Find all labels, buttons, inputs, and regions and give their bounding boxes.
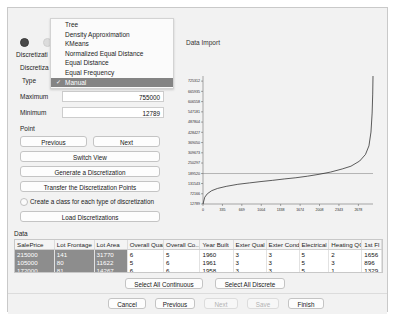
table-cell[interactable]: 81: [54, 267, 94, 273]
table-cell[interactable]: 6: [127, 250, 163, 259]
y-tick-label: 309673: [188, 151, 200, 155]
menu-item-kmeans[interactable]: KMeans: [51, 39, 173, 49]
select-all-continuous-button[interactable]: Select All Continuous: [125, 278, 203, 289]
table-cell[interactable]: 6: [164, 258, 200, 266]
x-tick-label: 335: [219, 208, 225, 212]
menu-item-density-approximation[interactable]: Density Approximation: [51, 30, 173, 40]
minimum-input[interactable]: 12789: [62, 107, 164, 118]
discretization-chart[interactable]: 1278972166131543189520250297309673369050…: [171, 70, 379, 220]
table-cell[interactable]: 3: [233, 267, 266, 273]
discretization-type-dropdown-menu[interactable]: TreeDensity ApproximationKMeansNormalize…: [50, 18, 174, 89]
table-cell[interactable]: 6: [164, 267, 200, 273]
table-cell[interactable]: 1958: [200, 267, 233, 273]
table-cell[interactable]: 1329: [362, 267, 382, 273]
create-class-checkbox-label: Create a class for each type of discreti…: [30, 198, 154, 205]
menu-item-normalized-equal-distance[interactable]: Normalized Equal Distance: [51, 49, 173, 59]
menu-item-label: Equal Frequency: [65, 69, 114, 76]
table-row[interactable]: 10500080116225619613353896: [15, 258, 382, 266]
data-table-container[interactable]: SalePriceLot FrontageLot AreaOverall Qua…: [14, 239, 383, 273]
create-class-checkbox[interactable]: [20, 198, 28, 206]
maximum-input[interactable]: 755000: [62, 91, 164, 102]
table-cell[interactable]: 1960: [200, 250, 233, 259]
table-cell[interactable]: 5: [127, 258, 163, 266]
column-header-saleprice[interactable]: SalePrice: [15, 240, 54, 250]
cancel-button[interactable]: Cancel: [108, 298, 146, 309]
y-tick-label: 428427: [188, 131, 200, 135]
point-label: Point: [20, 124, 35, 133]
menu-item-label: Equal Distance: [65, 59, 109, 66]
column-header-exter-cond[interactable]: Exter Cond: [266, 240, 299, 250]
select-all-discrete-button[interactable]: Select All Discrete: [215, 278, 285, 289]
switch-view-button[interactable]: Switch View: [20, 151, 160, 162]
menu-item-tree[interactable]: Tree: [51, 20, 173, 30]
column-header-overall-qual[interactable]: Overall Qual: [127, 240, 163, 250]
y-tick-label: 665935: [188, 90, 200, 94]
table-cell[interactable]: 896: [362, 258, 382, 266]
label-discretization-1: Discretizati: [16, 50, 48, 59]
menu-item-label: Density Approximation: [65, 31, 130, 38]
footer-next-button: Next: [204, 298, 238, 309]
table-cell[interactable]: 5: [164, 250, 200, 259]
table-cell[interactable]: 105000: [15, 258, 54, 266]
y-tick-label: 131543: [188, 182, 200, 186]
menu-item-manual[interactable]: ✓Manual: [51, 78, 173, 88]
series-line: [203, 76, 373, 204]
transfer-discretization-points-button[interactable]: Transfer the Discretization Points: [20, 181, 160, 192]
table-cell[interactable]: 80: [54, 258, 94, 266]
menu-item-label: Normalized Equal Distance: [65, 50, 143, 57]
menu-item-label: KMeans: [65, 40, 89, 47]
x-tick-label: 2343: [335, 208, 343, 212]
table-cell[interactable]: 141: [54, 250, 94, 259]
table-cell[interactable]: 5: [299, 267, 329, 273]
column-header-year-built[interactable]: Year Built: [200, 240, 233, 250]
table-cell[interactable]: 6: [127, 267, 163, 273]
table-cell[interactable]: 3: [266, 258, 299, 266]
column-header-heating-qc[interactable]: Heating QC: [329, 240, 362, 250]
table-row[interactable]: 172000811426766195833511329: [15, 267, 382, 273]
chart-svg: 1278972166131543189520250297309673369050…: [171, 70, 379, 220]
table-cell[interactable]: 1961: [200, 258, 233, 266]
x-tick-label: 1004: [257, 208, 265, 212]
y-tick-label: 725312: [188, 79, 200, 83]
footer-previous-button[interactable]: Previous: [155, 298, 195, 309]
data-table-header-row: SalePriceLot FrontageLot AreaOverall Qua…: [15, 240, 382, 250]
next-discretization-button[interactable]: Next: [93, 136, 160, 147]
table-cell[interactable]: 1: [329, 267, 362, 273]
table-cell[interactable]: 5: [299, 258, 329, 266]
table-cell[interactable]: 215000: [15, 250, 54, 259]
previous-discretization-button[interactable]: Previous: [20, 136, 87, 147]
table-cell[interactable]: 172000: [15, 267, 54, 273]
data-table-head: SalePriceLot FrontageLot AreaOverall Qua…: [15, 240, 382, 250]
maximum-label: Maximum: [20, 92, 48, 101]
column-header-exter-qual[interactable]: Exter Qual: [233, 240, 266, 250]
generate-discretization-button[interactable]: Generate a Discretization: [20, 166, 160, 177]
table-cell[interactable]: 2: [329, 250, 362, 259]
table-cell[interactable]: 31770: [94, 250, 127, 259]
minimum-label: Minimum: [20, 108, 46, 117]
column-header-electrical[interactable]: Electrical: [299, 240, 329, 250]
table-cell[interactable]: 5: [299, 250, 329, 259]
x-tick-label: 1338: [277, 208, 285, 212]
table-cell[interactable]: 1656: [362, 250, 382, 259]
table-cell[interactable]: 14267: [94, 267, 127, 273]
table-cell[interactable]: 11622: [94, 258, 127, 266]
table-cell[interactable]: 3: [329, 258, 362, 266]
column-header-lot-area[interactable]: Lot Area: [94, 240, 127, 250]
menu-item-equal-distance[interactable]: Equal Distance: [51, 58, 173, 68]
table-cell[interactable]: 3: [266, 267, 299, 273]
column-header-lot-frontage[interactable]: Lot Frontage: [54, 240, 94, 250]
radio-discretization-mode-a[interactable]: [20, 38, 29, 47]
column-header-1st-fl[interactable]: 1st Fl: [362, 240, 382, 250]
table-row[interactable]: 2150001413177065196033521656: [15, 250, 382, 259]
table-cell[interactable]: 3: [233, 250, 266, 259]
y-tick-label: 189520: [188, 172, 200, 176]
column-header-overall-co-[interactable]: Overall Co...: [164, 240, 200, 250]
menu-item-equal-frequency[interactable]: Equal Frequency: [51, 68, 173, 78]
load-discretizations-button[interactable]: Load Discretizations: [20, 211, 160, 222]
x-tick-label: 2008: [316, 208, 324, 212]
finish-button[interactable]: Finish: [288, 298, 324, 309]
create-class-checkbox-row[interactable]: Create a class for each type of discreti…: [20, 196, 168, 207]
data-table: SalePriceLot FrontageLot AreaOverall Qua…: [15, 240, 382, 273]
table-cell[interactable]: 3: [266, 250, 299, 259]
table-cell[interactable]: 3: [233, 258, 266, 266]
